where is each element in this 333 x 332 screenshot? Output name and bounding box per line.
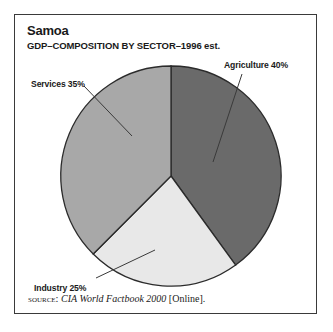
source-label: Source: <box>28 293 59 304</box>
figure-frame: Samoa GDP–COMPOSITION BY SECTOR–1996 est… <box>14 14 317 314</box>
source-work-title: CIA World Factbook 2000 <box>61 293 166 304</box>
pie-label-services: Services 35% <box>31 79 85 89</box>
source-note: Source: CIA World Factbook 2000 [Online]… <box>28 293 205 304</box>
pie-label-agriculture: Agriculture 40% <box>224 60 288 70</box>
source-suffix: [Online]. <box>169 293 205 304</box>
pie-label-industry: Industry 25% <box>34 283 86 293</box>
